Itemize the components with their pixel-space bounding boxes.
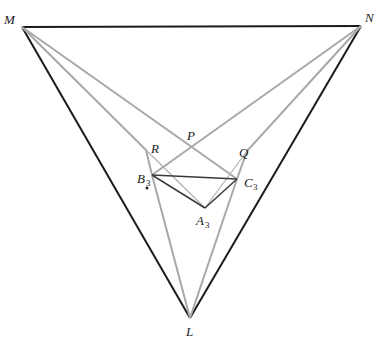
label-Q: Q — [239, 145, 249, 160]
label-M: M — [3, 12, 16, 27]
label-P: P — [186, 128, 195, 143]
gray-construction-lines — [22, 26, 361, 318]
label-B3-subscript: 3 — [146, 178, 151, 188]
outer-triangle — [22, 26, 361, 318]
label-C3: C — [244, 175, 253, 190]
label-B3: B — [137, 171, 145, 186]
label-R: R — [150, 141, 159, 156]
geometry-diagram: M N L P Q R B 3 C 3 A 3 — [0, 0, 383, 343]
label-A3-subscript: 3 — [205, 220, 210, 230]
label-L: L — [185, 324, 193, 339]
label-C3-subscript: 3 — [253, 182, 258, 192]
inner-triangle — [152, 175, 237, 208]
label-A3: A — [195, 213, 204, 228]
label-N: N — [364, 10, 375, 25]
